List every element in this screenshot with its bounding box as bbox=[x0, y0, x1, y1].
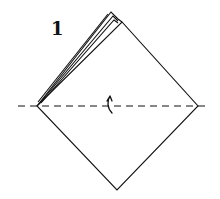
fold-arrow-icon bbox=[107, 96, 112, 113]
layered-flaps bbox=[37, 12, 122, 106]
origami-diagram bbox=[0, 0, 220, 199]
